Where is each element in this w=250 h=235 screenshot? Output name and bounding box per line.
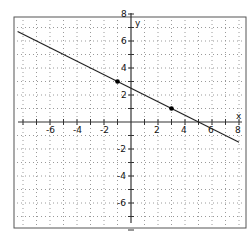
svg-text:2: 2: [154, 125, 160, 135]
svg-text:-6: -6: [117, 198, 126, 208]
svg-text:4: 4: [181, 125, 187, 135]
data-point: [169, 106, 174, 111]
y-axis-label: y: [135, 18, 141, 28]
svg-text:-6: -6: [46, 125, 55, 135]
svg-text:-2: -2: [100, 125, 109, 135]
svg-text:8: 8: [121, 9, 127, 19]
svg-text:-2: -2: [117, 144, 126, 154]
svg-text:-4: -4: [117, 171, 126, 181]
svg-text:-4: -4: [73, 125, 82, 135]
svg-text:4: 4: [121, 63, 127, 73]
svg-text:6: 6: [208, 125, 214, 135]
data-point: [115, 79, 120, 84]
svg-text:6: 6: [121, 36, 127, 46]
svg-text:2: 2: [121, 90, 127, 100]
x-axis-label: x: [236, 111, 242, 121]
svg-text:8: 8: [235, 125, 241, 135]
coordinate-plane: -6-4-224688642-2-4-6 x y: [0, 0, 250, 235]
